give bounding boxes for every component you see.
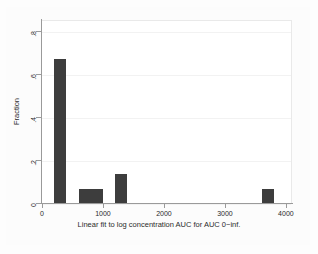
x-tick-mark-2: [164, 204, 165, 208]
y-axis-title: Fraction: [12, 62, 21, 162]
bar: [91, 189, 103, 203]
x-tick-mark-3: [225, 204, 226, 208]
x-axis-line: [41, 203, 293, 204]
plot-inner: [42, 21, 291, 203]
plot-area: [42, 20, 292, 203]
gridline-y-1: [42, 161, 291, 162]
bar: [54, 59, 66, 203]
y-tick-label: .6: [30, 74, 38, 98]
y-axis-line: [41, 19, 42, 204]
bar: [262, 189, 274, 203]
gridline-y-3: [42, 75, 291, 76]
y-tick-label: .2: [30, 160, 38, 184]
x-tick-mark-0: [42, 204, 43, 208]
histogram-figure: 0.2.4.6.8 01000200030004000 Fraction Lin…: [0, 0, 318, 254]
x-tick-label: 4000: [266, 209, 306, 218]
x-tick-label: 2000: [144, 209, 184, 218]
x-tick-label: 0: [22, 209, 62, 218]
x-axis-title: Linear fit to log concentration AUC for …: [0, 220, 318, 230]
y-tick-label: .8: [30, 31, 38, 55]
x-tick-mark-4: [286, 204, 287, 208]
bar: [79, 189, 91, 203]
bar: [115, 174, 127, 203]
gridline-y-2: [42, 118, 291, 119]
x-tick-mark-1: [103, 204, 104, 208]
x-tick-label: 1000: [83, 209, 123, 218]
gridline-y-0: [42, 204, 291, 205]
gridline-y-4: [42, 32, 291, 33]
y-tick-label: .4: [30, 117, 38, 141]
x-tick-label: 3000: [205, 209, 245, 218]
